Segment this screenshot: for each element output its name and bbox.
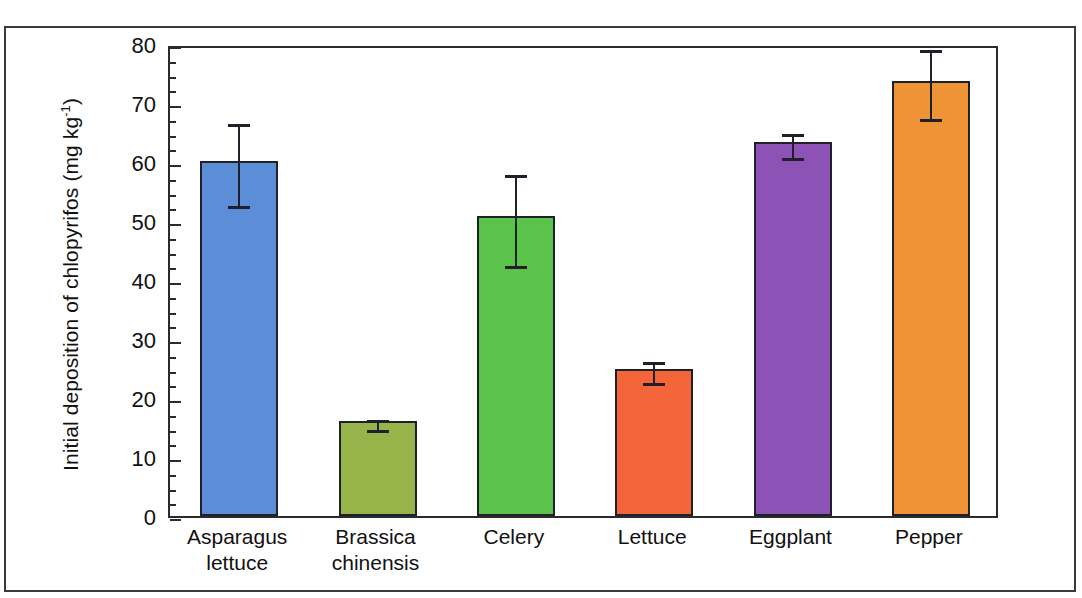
- y-tick-label: 40: [94, 269, 156, 295]
- error-bar-cap-bottom: [367, 430, 389, 433]
- y-tick-label: 80: [94, 33, 156, 59]
- x-tick-label: Lettuce: [618, 524, 687, 550]
- x-tick-label-line2: lettuce: [187, 550, 287, 576]
- y-axis-minor-tick: [170, 91, 176, 93]
- y-axis-minor-tick: [170, 239, 176, 241]
- error-bar-cap-bottom: [228, 206, 250, 209]
- y-tick-label: 20: [94, 387, 156, 413]
- y-axis-minor-tick: [170, 150, 176, 152]
- y-axis-minor-tick: [170, 209, 176, 211]
- y-axis-major-tick: [170, 401, 181, 403]
- x-tick-label-line1: Pepper: [895, 525, 963, 548]
- y-tick-label: 30: [94, 328, 156, 354]
- error-bar-line: [515, 175, 517, 266]
- y-axis-major-tick: [170, 47, 181, 49]
- error-bar-line: [792, 134, 794, 158]
- x-tick-label: Eggplant: [749, 524, 832, 550]
- x-tick-label-line2: chinensis: [332, 550, 420, 576]
- y-axis-title-suffix: ): [59, 98, 82, 105]
- y-axis-minor-tick: [170, 475, 176, 477]
- y-axis-minor-tick: [170, 136, 176, 138]
- y-axis-major-tick: [170, 519, 181, 521]
- y-tick-label: 0: [94, 505, 156, 531]
- y-axis-tick-labels: 01020304050607080: [94, 46, 156, 518]
- y-axis-minor-tick: [170, 254, 176, 256]
- y-axis-minor-tick: [170, 490, 176, 492]
- error-bar-line: [653, 362, 655, 382]
- bar: [754, 142, 832, 516]
- error-bar-cap-bottom: [643, 383, 665, 386]
- y-axis-minor-tick: [170, 62, 176, 64]
- error-bar-cap-top: [643, 362, 665, 365]
- plot-area: [168, 46, 998, 518]
- y-axis-minor-tick: [170, 372, 176, 374]
- y-tick-label: 60: [94, 151, 156, 177]
- error-bar-cap-top: [228, 124, 250, 127]
- error-bar-cap-top: [920, 50, 942, 53]
- y-axis-minor-tick: [170, 121, 176, 123]
- x-tick-label: Pepper: [895, 524, 963, 550]
- error-bar-cap-bottom: [505, 266, 527, 269]
- y-axis-title: Initial deposition of chlopyrifos (mg kg…: [58, 55, 83, 515]
- plot-surface: [170, 48, 996, 516]
- y-axis-major-tick: [170, 165, 181, 167]
- figure-container: Initial deposition of chlopyrifos (mg kg…: [0, 0, 1082, 598]
- y-axis-minor-tick: [170, 268, 176, 270]
- y-axis-title-prefix: Initial deposition of chlopyrifos (mg kg: [59, 117, 82, 471]
- y-axis-minor-tick: [170, 357, 176, 359]
- y-axis-minor-tick: [170, 504, 176, 506]
- y-axis-title-superscript: -1: [58, 105, 73, 117]
- x-tick-label-line1: Celery: [483, 525, 544, 548]
- x-tick-label-line1: Asparagus: [187, 525, 287, 548]
- x-tick-label-line1: Brassica: [335, 525, 416, 548]
- y-axis-minor-tick: [170, 298, 176, 300]
- y-axis-minor-tick: [170, 416, 176, 418]
- error-bar-line: [930, 50, 932, 118]
- y-axis-major-tick: [170, 283, 181, 285]
- y-axis-major-tick: [170, 106, 181, 108]
- y-tick-label: 50: [94, 210, 156, 236]
- x-tick-label-line1: Eggplant: [749, 525, 832, 548]
- y-axis-major-tick: [170, 342, 181, 344]
- bar: [892, 81, 970, 516]
- error-bar-cap-bottom: [782, 158, 804, 161]
- y-axis-major-tick: [170, 460, 181, 462]
- error-bar-cap-top: [367, 420, 389, 423]
- x-tick-label: Celery: [483, 524, 544, 550]
- bar: [339, 421, 417, 516]
- y-tick-label: 10: [94, 446, 156, 472]
- x-tick-label: Asparaguslettuce: [187, 524, 287, 576]
- y-axis-minor-tick: [170, 77, 176, 79]
- error-bar-cap-top: [782, 134, 804, 137]
- error-bar-cap-top: [505, 175, 527, 178]
- error-bar-cap-bottom: [920, 119, 942, 122]
- error-bar-line: [238, 124, 240, 207]
- y-axis-minor-tick: [170, 386, 176, 388]
- x-axis-tick-labels: AsparaguslettuceBrassicachinensisCeleryL…: [168, 524, 998, 594]
- y-axis-minor-tick: [170, 327, 176, 329]
- y-axis-minor-tick: [170, 180, 176, 182]
- x-tick-label-line1: Lettuce: [618, 525, 687, 548]
- x-tick-label: Brassicachinensis: [332, 524, 420, 576]
- y-axis-minor-tick: [170, 195, 176, 197]
- y-tick-label: 70: [94, 92, 156, 118]
- y-axis-minor-tick: [170, 445, 176, 447]
- y-axis-minor-tick: [170, 313, 176, 315]
- bar: [200, 161, 278, 516]
- bar: [615, 369, 693, 517]
- y-axis-minor-tick: [170, 431, 176, 433]
- y-axis-major-tick: [170, 224, 181, 226]
